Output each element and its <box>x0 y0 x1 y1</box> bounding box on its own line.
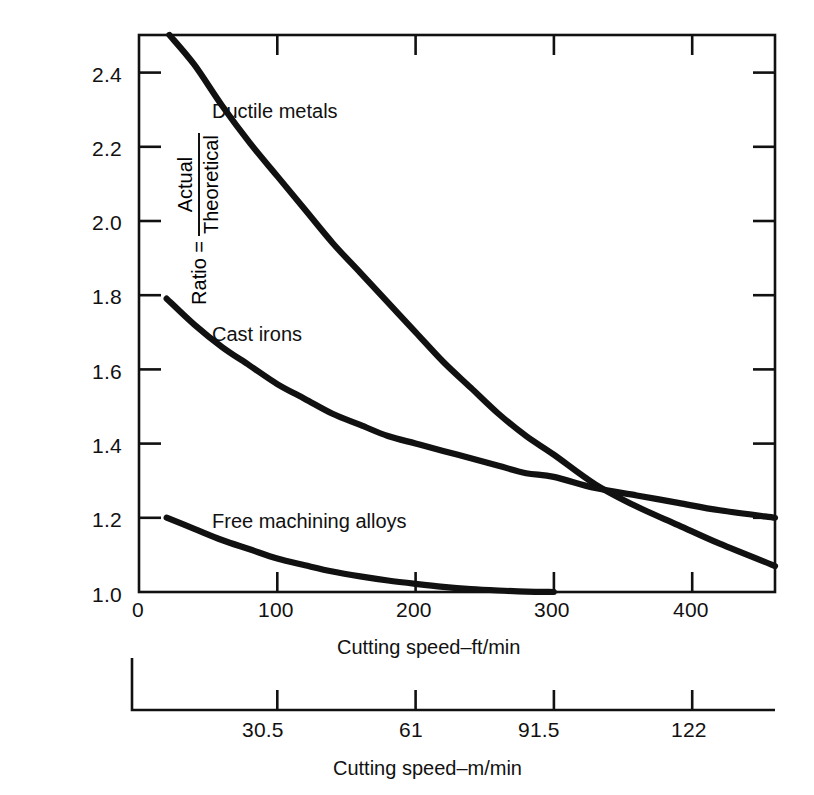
x-tick-label-400: 400 <box>673 598 709 622</box>
x-tick-label-200: 200 <box>396 598 432 622</box>
y-tick-label-1.6: 1.6 <box>92 360 122 384</box>
y-axis-title-fraction: Actual Theoretical <box>175 133 222 236</box>
x-axis-title-secondary: Cutting speed–m/min <box>333 757 522 780</box>
x-tick-label-100: 100 <box>258 598 294 622</box>
secondary-x-axis <box>132 658 775 710</box>
y-tick-label-2.2: 2.2 <box>92 137 122 161</box>
y-axis-title-denominator: Theoretical <box>201 133 223 236</box>
x2-tick-label-91.5: 91.5 <box>518 718 560 742</box>
y-tick-label-1.0: 1.0 <box>92 583 122 607</box>
y-tick-label-1.4: 1.4 <box>92 434 122 458</box>
y-tick-label-1.2: 1.2 <box>92 508 122 532</box>
curve-label-free-machining-alloys: Free machining alloys <box>212 510 407 533</box>
curve-label-ductile-metals: Ductile metals <box>212 100 338 123</box>
x2-tick-label-61: 61 <box>399 718 423 742</box>
y-tick-label-2.0: 2.0 <box>92 211 122 235</box>
y-tick-label-2.4: 2.4 <box>92 63 122 87</box>
x2-tick-label-122: 122 <box>671 718 707 742</box>
curve-label-cast-irons: Cast irons <box>212 323 302 346</box>
x-axis-title: Cutting speed–ft/min <box>337 636 520 659</box>
y-axis-title-numerator: Actual <box>175 155 197 215</box>
x-tick-label-0: 0 <box>132 598 144 622</box>
x-tick-label-300: 300 <box>534 598 570 622</box>
chart-figure: 1.0 1.2 1.4 1.6 1.8 2.0 2.2 2.4 Ratio = … <box>0 0 814 795</box>
y-axis-title-prefix: Ratio = <box>188 241 211 305</box>
y-tick-label-1.8: 1.8 <box>92 285 122 309</box>
chart-canvas <box>0 0 814 795</box>
x2-tick-label-30.5: 30.5 <box>242 718 284 742</box>
